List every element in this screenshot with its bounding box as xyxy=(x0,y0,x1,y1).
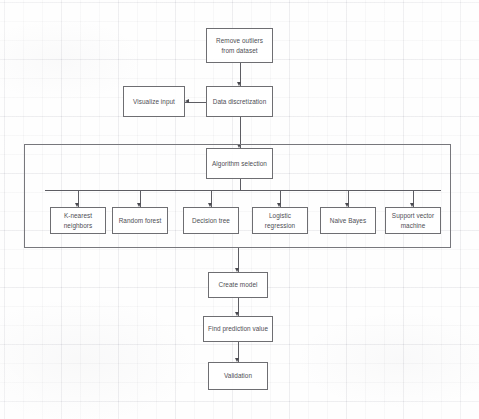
algorithm-option-label: Logistic regression xyxy=(255,211,305,230)
algorithm-option-5[interactable]: Naive Bayes xyxy=(320,207,376,234)
node-find-prediction-value[interactable]: Find prediction value xyxy=(203,316,273,342)
arrowhead-bus-to-option-5 xyxy=(345,203,349,207)
node-validation-label: Validation xyxy=(211,371,265,380)
arrowhead-bus-to-option-1 xyxy=(75,203,79,207)
flowchart-canvas: Remove outliers from dataset Data discre… xyxy=(0,0,479,419)
algorithm-option-6[interactable]: Support vector machine xyxy=(385,207,441,234)
algorithm-option-2[interactable]: Random forest xyxy=(112,207,168,234)
algorithm-option-1[interactable]: K-nearest neighbors xyxy=(50,207,106,234)
arrowhead-bus-to-option-4 xyxy=(277,203,281,207)
algorithm-option-4[interactable]: Logistic regression xyxy=(252,207,308,234)
algorithm-option-label: Support vector machine xyxy=(388,211,438,230)
connector-distribution-bus xyxy=(45,190,441,191)
algorithm-option-3[interactable]: Decision tree xyxy=(183,207,239,234)
node-find-prediction-value-label: Find prediction value xyxy=(206,324,270,333)
algorithm-option-label: Random forest xyxy=(115,216,165,225)
node-data-discretization-label: Data discretization xyxy=(209,97,270,106)
node-create-model-label: Create model xyxy=(211,280,265,289)
arrowhead-discretization-to-visualize xyxy=(185,99,189,103)
connector-algorithm-to-bus xyxy=(240,179,241,190)
node-remove-outliers-label: Remove outliers from dataset xyxy=(209,36,270,55)
algorithm-option-label: Naive Bayes xyxy=(323,216,373,225)
arrowhead-bus-to-option-3 xyxy=(208,203,212,207)
node-visualize-input-label: Visualize input xyxy=(126,97,182,106)
arrowhead-bus-to-option-2 xyxy=(137,203,141,207)
node-algorithm-selection-label: Algorithm selection xyxy=(209,159,270,168)
node-create-model[interactable]: Create model xyxy=(208,272,268,298)
algorithm-option-label: Decision tree xyxy=(186,216,236,225)
node-remove-outliers[interactable]: Remove outliers from dataset xyxy=(206,28,273,63)
arrowhead-bus-to-option-6 xyxy=(410,203,414,207)
node-validation[interactable]: Validation xyxy=(208,362,268,390)
node-algorithm-selection[interactable]: Algorithm selection xyxy=(206,148,273,179)
node-data-discretization[interactable]: Data discretization xyxy=(206,86,273,117)
algorithm-option-label: K-nearest neighbors xyxy=(53,211,103,230)
node-visualize-input[interactable]: Visualize input xyxy=(123,86,185,117)
